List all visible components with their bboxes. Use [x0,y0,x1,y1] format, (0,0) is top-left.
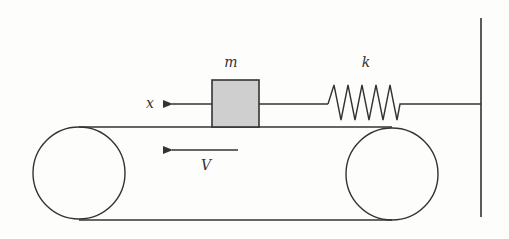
displacement-label: x [146,95,154,111]
spring [328,85,404,120]
left-pulley [33,127,125,219]
velocity-label: V [201,157,213,173]
right-pulley [346,128,438,220]
mass-block [212,80,259,127]
belt-spring-mass-diagram: m k x V [0,0,509,239]
spring-label: k [362,54,370,70]
mass-label: m [224,54,237,70]
